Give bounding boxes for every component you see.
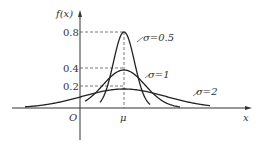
y-axis-arrow-icon bbox=[78, 10, 82, 17]
ytick-0-8: 0.8 bbox=[63, 27, 79, 38]
ytick-0-4: 0.4 bbox=[63, 63, 79, 74]
y-axis-label: f(x) bbox=[55, 8, 73, 19]
origin-label: O bbox=[69, 112, 77, 123]
curve-sigma-2 bbox=[25, 89, 210, 107]
normal-distribution-chart: f(x) 0.8 0.4 0.2 O μ x σ=0.5 σ=1 σ=2 bbox=[0, 0, 260, 150]
label-sigma-0-5: σ=0.5 bbox=[143, 32, 174, 43]
x-axis-label: x bbox=[243, 112, 249, 123]
mu-label: μ bbox=[120, 112, 127, 123]
label-sigma-2: σ=2 bbox=[196, 86, 218, 97]
label-sigma-1: σ=1 bbox=[148, 69, 170, 80]
ytick-0-2: 0.2 bbox=[63, 81, 79, 92]
x-axis-arrow-icon bbox=[245, 106, 252, 110]
